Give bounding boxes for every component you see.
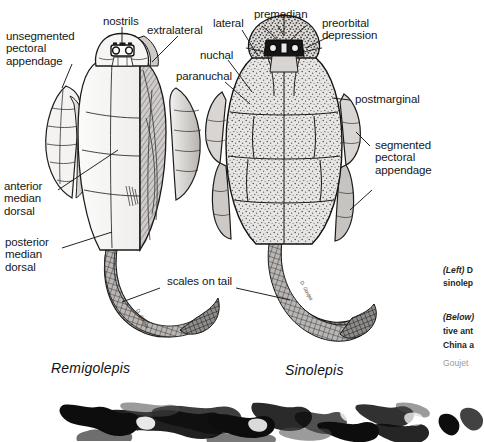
caption-block-two-line-two: tive ant [443,325,473,338]
label-nostrils: nostrils [103,15,139,27]
caption-credit: Goujet [443,357,468,370]
caption-block-two-line-three: China a [443,339,474,352]
caption-block-two-line-one: (Below) [443,311,474,324]
label-lateral: lateral [213,17,244,29]
leader-unsegmented-pectoral-appendage [62,64,72,88]
label-premedian: premedian [254,8,307,20]
label-postmarginal: postmarginal [355,93,420,105]
label-scales-on-tail: scales on tail [167,275,232,287]
figure-plate: D. Goujet D. Goujet unsegmented pectoral… [0,0,484,442]
label-unsegmented-pectoral-appendage: unsegmented pectoral appendage [6,30,75,67]
label-paranuchal: paranuchal [176,70,232,82]
species-name-sinolepis: Sinolepis [285,362,344,378]
label-preorbital-depression: preorbital depression [322,17,377,42]
label-nuchal: nuchal [200,49,233,61]
label-segmented-pectoral-appendage: segmented pectoral appendage [375,139,432,176]
species-name-remigolepis: Remigolepis [51,360,130,376]
caption-block-one-line-one: (Left) D [443,264,473,277]
caption-block-one-line-two: sinolep [443,277,473,290]
label-anterior-median-dorsal: anterior median dorsal [4,180,42,217]
leader-scales-on-tail-left [122,288,160,302]
svg-text:D. Goujet: D. Goujet [299,280,314,302]
label-extralateral: extralateral [147,24,203,36]
label-posterior-median-dorsal: posterior median dorsal [5,236,49,273]
fossil-specimen-photograph [57,401,484,442]
